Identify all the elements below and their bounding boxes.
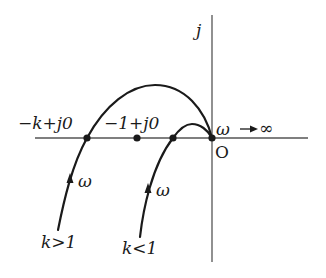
minus-k-label: −k+j0 — [18, 115, 73, 132]
curve-k-greater-1 — [58, 85, 212, 230]
k-greater-1-label: k>1 — [41, 234, 76, 251]
omega-label-k-greater-1: ω — [78, 173, 92, 190]
curve-k-less-1 — [140, 124, 212, 237]
omega-label-k-less-1: ω — [156, 182, 170, 199]
minus-one-text: −1+j0 — [104, 113, 159, 133]
origin-label: O — [215, 144, 229, 161]
omega-infinity-symbol: ∞ — [259, 120, 273, 137]
omega-infinity-arrowhead — [250, 126, 258, 133]
point-minus-one — [133, 134, 140, 141]
point-origin — [208, 134, 215, 141]
imag-axis-label: j — [196, 22, 201, 39]
omega-infinity-omega-label: ω — [216, 121, 230, 138]
k-less-1-label: k<1 — [122, 240, 157, 257]
minus-one-label: −1+j0 — [104, 115, 159, 132]
point-minus-k — [83, 134, 90, 141]
point-k-less-crossing — [169, 134, 176, 141]
minus-k-text: −k+j0 — [18, 113, 73, 133]
